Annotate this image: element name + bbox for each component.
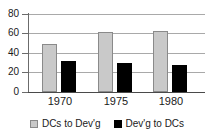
legend-entry-devg-to-dcs: Dev'g to DCs (114, 119, 185, 129)
y-tick-mark-80 (22, 14, 28, 15)
legend-swatch-black-square-icon (114, 120, 122, 128)
x-tick-label-1970: 1970 (30, 95, 90, 107)
y-tick-label-0: 0 (0, 87, 19, 97)
y-tick-label-60: 60 (0, 28, 19, 38)
y-tick-label-80: 80 (0, 9, 19, 19)
bar-dcs-to-devg-1970 (42, 44, 57, 92)
bar-dcs-to-devg-1975 (98, 32, 113, 92)
y-tick-label-20: 20 (0, 67, 19, 77)
y-tick-mark-60 (22, 33, 28, 34)
y-tick-mark-0 (22, 92, 28, 93)
chart-legend: DCs to Dev'g Dev'g to DCs (0, 119, 214, 129)
bar-devg-to-dcs-1975 (117, 63, 132, 92)
y-tick-mark-40 (22, 53, 28, 54)
x-tick-label-1980: 1980 (141, 95, 201, 107)
legend-label-dcs-to-devg: DCs to Dev'g (42, 119, 101, 129)
legend-label-devg-to-dcs: Dev'g to DCs (126, 119, 185, 129)
x-tick-label-1975: 1975 (86, 95, 146, 107)
bar-dcs-to-devg-1980 (153, 31, 168, 92)
y-tick-label-40: 40 (0, 48, 19, 58)
x-axis-line (28, 92, 205, 93)
legend-entry-dcs-to-devg: DCs to Dev'g (30, 119, 101, 129)
y-tick-mark-20 (22, 72, 28, 73)
bar-devg-to-dcs-1970 (61, 61, 76, 92)
y-axis-line (28, 13, 29, 93)
bar-chart: 80 60 40 20 0 1970 1975 1980 DCs to Dev'… (0, 0, 214, 138)
legend-swatch-light-gray-square-icon (30, 120, 38, 128)
bar-group-1975 (98, 10, 144, 92)
plot-area (28, 10, 205, 92)
bar-devg-to-dcs-1980 (172, 65, 187, 92)
bar-group-1970 (42, 10, 88, 92)
bar-group-1980 (153, 10, 199, 92)
